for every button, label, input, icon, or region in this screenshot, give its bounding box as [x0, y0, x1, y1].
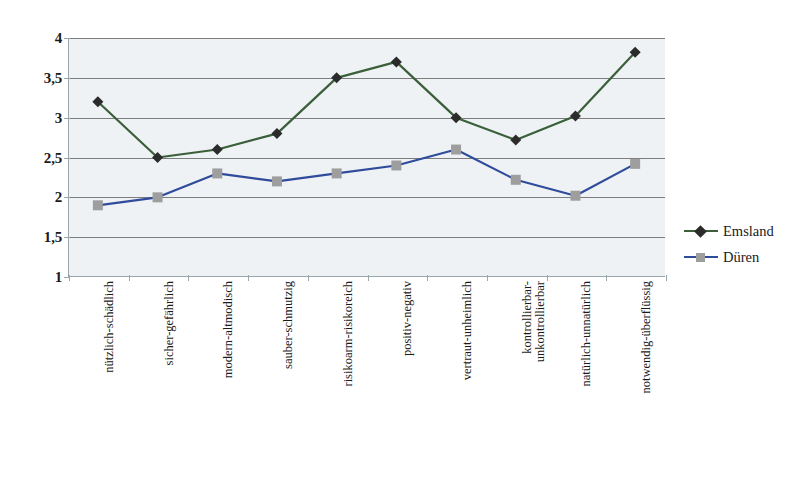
legend-item-düren[interactable]: Düren — [684, 244, 804, 270]
y-axis-tick-labels: 11,522,533,54 — [8, 38, 62, 277]
y-tick-label: 3 — [16, 110, 62, 125]
x-tick-label-line: kontrollierbar- — [521, 281, 534, 461]
x-tick-label: modern-altmodisch — [222, 281, 235, 461]
x-tick-label-line: positiv-negativ — [401, 281, 414, 461]
series-line-emsland — [98, 52, 635, 157]
legend-item-emsland[interactable]: Emsland — [684, 218, 804, 244]
data-point-marker — [630, 159, 640, 169]
data-point-marker — [570, 191, 580, 201]
x-tick-mark — [666, 275, 667, 281]
data-point-marker — [511, 175, 521, 185]
y-tick-label: 1 — [16, 270, 62, 285]
data-point-marker — [153, 192, 163, 202]
x-tick-label-line: nützlich-schädlich — [103, 281, 116, 461]
line-chart: 11,522,533,54 nützlich-schädlichsicher-g… — [0, 0, 808, 484]
x-tick-label: nützlich-schädlich — [103, 281, 116, 461]
x-tick-label-line: sicher-gefährlich — [163, 281, 176, 461]
x-tick-label: natürlich-unnatürlich — [580, 281, 593, 461]
legend-swatch-icon — [684, 224, 718, 238]
x-tick-label: vertraut-unheimlich — [461, 281, 474, 461]
data-series-layer — [68, 38, 665, 277]
x-tick-label: sauber-schmutzig — [282, 281, 295, 461]
y-tick-label: 1,5 — [16, 230, 62, 245]
data-point-marker — [93, 200, 103, 210]
data-point-marker — [272, 176, 282, 186]
x-tick-label: risikoarm-risikoreich — [342, 281, 355, 461]
x-tick-label-line: natürlich-unnatürlich — [580, 281, 593, 461]
data-point-marker — [212, 168, 222, 178]
x-axis-tick-labels: nützlich-schädlichsicher-gefährlichmoder… — [68, 281, 665, 481]
x-tick-label-line: modern-altmodisch — [222, 281, 235, 461]
chart-legend: EmslandDüren — [684, 218, 804, 270]
x-tick-label: kontrollierbar-unkontrollierbar — [521, 281, 547, 461]
data-point-marker — [212, 144, 223, 155]
x-tick-label-line: risikoarm-risikoreich — [342, 281, 355, 461]
legend-label: Düren — [723, 249, 759, 266]
y-tick-label: 2 — [16, 190, 62, 205]
x-tick-label-line: vertraut-unheimlich — [461, 281, 474, 461]
data-point-marker — [391, 160, 401, 170]
y-tick-label: 2,5 — [16, 150, 62, 165]
x-tick-label: notwendig-überflüssig — [640, 281, 653, 461]
x-tick-label: sicher-gefährlich — [163, 281, 176, 461]
y-tick-label: 3,5 — [16, 70, 62, 85]
x-tick-label: positiv-negativ — [401, 281, 414, 461]
legend-label: Emsland — [723, 223, 774, 240]
x-tick-label-line: notwendig-überflüssig — [640, 281, 653, 461]
x-tick-label-line: sauber-schmutzig — [282, 281, 295, 461]
data-point-marker — [332, 168, 342, 178]
x-tick-label-line: unkontrollierbar — [534, 281, 547, 461]
legend-swatch-icon — [684, 250, 718, 264]
data-point-marker — [451, 145, 461, 155]
series-line-düren — [98, 150, 635, 206]
data-point-marker — [510, 134, 521, 145]
y-tick-label: 4 — [16, 31, 62, 46]
